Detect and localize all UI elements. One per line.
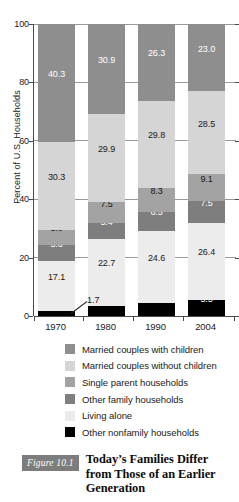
legend-swatch-icon [65, 377, 75, 387]
bar-segment [38, 261, 75, 311]
legend-item-label: Single parent households [82, 377, 188, 388]
bar-value-label: 29.9 [88, 144, 125, 153]
bar-value-label: 40.3 [38, 69, 75, 78]
bar-2004: 5.526.47.59.128.523.0 [188, 24, 225, 316]
bar-value-label: 17.1 [38, 273, 75, 282]
y-tick-label-100: 100 [14, 19, 29, 29]
legend-item-4: Living alone [0, 407, 239, 424]
bar-segment [88, 24, 125, 114]
legend-swatch-icon [65, 394, 75, 404]
x-axis-label-2004: 2004 [181, 321, 231, 332]
legend-swatch-icon [65, 411, 75, 421]
bar-segment [138, 231, 175, 303]
x-axis-label-1990: 1990 [131, 321, 181, 332]
bars-container: 17.15.65.030.340.33.622.75.47.529.930.94… [33, 24, 235, 316]
callout-label-1-7: 1.7 [87, 295, 100, 305]
y-tick-label-20: 20 [19, 253, 29, 263]
bar-value-label: 9.1 [188, 174, 225, 183]
bar-value-label: 30.9 [88, 56, 125, 65]
legend-swatch-icon [65, 344, 75, 354]
right-tick-40 [235, 199, 239, 200]
figure-caption-text: Today’s Families Differ from Those of an… [86, 452, 232, 496]
bar-value-label: 30.3 [38, 172, 75, 181]
y-axis-ticks: 020406080100 [0, 24, 33, 316]
legend-item-0: Married couples with children [0, 341, 239, 358]
right-tick-60 [235, 141, 239, 142]
legend-item-label: Living alone [82, 410, 132, 421]
bar-1980: 3.622.75.47.529.930.9 [88, 24, 125, 316]
bar-segment [188, 223, 225, 300]
right-tick-100 [235, 24, 239, 25]
figure-10-1: Percent of U.S. Households 020406080100 … [0, 0, 239, 502]
legend-item-5: Other nonfamily households [0, 424, 239, 441]
bar-value-label: 28.5 [188, 119, 225, 128]
bar-segment [138, 24, 175, 101]
right-tick-20 [235, 258, 239, 259]
bar-value-label: 23.0 [188, 44, 225, 53]
right-tick-0 [235, 316, 239, 317]
legend-item-label: Married couples without children [82, 360, 217, 371]
bar-segment [88, 114, 125, 201]
bar-value-label: 24.6 [138, 253, 175, 262]
bar-segment [188, 91, 225, 174]
bar-segment [138, 101, 175, 188]
legend-swatch-icon [65, 361, 75, 371]
y-tick-label-60: 60 [19, 136, 29, 146]
right-tick-80 [235, 82, 239, 83]
legend-item-label: Married couples with children [82, 344, 204, 355]
bar-segment [38, 142, 75, 230]
legend-item-label: Other nonfamily households [82, 427, 199, 438]
y-tick-label-40: 40 [19, 194, 29, 204]
chart-plot-area: Percent of U.S. Households 020406080100 … [0, 0, 239, 340]
x-axis-label-1980: 1980 [81, 321, 131, 332]
bar-value-label: 22.7 [88, 259, 125, 268]
legend-item-1: Married couples without children [0, 358, 239, 375]
figure-number-badge: Figure 10.1 [22, 455, 79, 471]
bar-segment [188, 24, 225, 91]
bar-segment [88, 306, 125, 317]
legend-item-3: Other family households [0, 391, 239, 408]
legend-item-2: Single parent households [0, 374, 239, 391]
bar-value-label: 26.4 [188, 248, 225, 257]
bar-1990: 4.624.66.58.329.826.3 [138, 24, 175, 316]
bar-1970: 17.15.65.030.340.3 [38, 24, 75, 316]
chart-legend: Married couples with childrenMarried cou… [0, 341, 239, 441]
bar-segment [38, 24, 75, 142]
legend-item-label: Other family households [82, 394, 183, 405]
y-tick-label-80: 80 [19, 77, 29, 87]
bar-value-label: 26.3 [138, 49, 175, 58]
legend-swatch-icon [65, 427, 75, 437]
bar-value-label: 29.8 [138, 131, 175, 140]
x-axis-label-1970: 1970 [31, 321, 81, 332]
figure-caption: Figure 10.1 Today’s Families Differ from… [22, 452, 232, 496]
x-axis-labels: 1970198019902004 [33, 321, 235, 337]
